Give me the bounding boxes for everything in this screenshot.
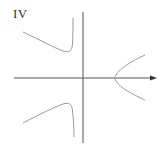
- lower-left-branch-curve: [23, 103, 74, 137]
- graph-canvas: [0, 0, 163, 146]
- upper-left-branch-curve: [23, 18, 73, 52]
- x-axis-arrow-icon: [150, 76, 157, 81]
- graph-panel: IV: [0, 0, 163, 146]
